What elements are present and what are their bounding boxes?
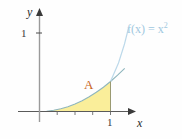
shaded-region-label: A [84, 78, 93, 91]
x-axis-tick-label-1: 1 [107, 117, 113, 128]
function-equation-base: f(x) = x [127, 22, 164, 36]
function-equation-label: f(x) = x2 [127, 22, 168, 35]
plot-canvas [0, 0, 182, 139]
area-under-parabola-figure: y x 1 1 A f(x) = x2 [0, 0, 182, 139]
x-axis-label: x [137, 117, 142, 129]
y-axis-arrow [36, 8, 43, 16]
x-axis-arrow [128, 108, 136, 115]
y-axis-label: y [27, 6, 32, 18]
function-equation-exponent: 2 [164, 21, 168, 30]
shaded-area-region [40, 82, 111, 112]
y-axis-tick-label-1: 1 [21, 28, 27, 39]
